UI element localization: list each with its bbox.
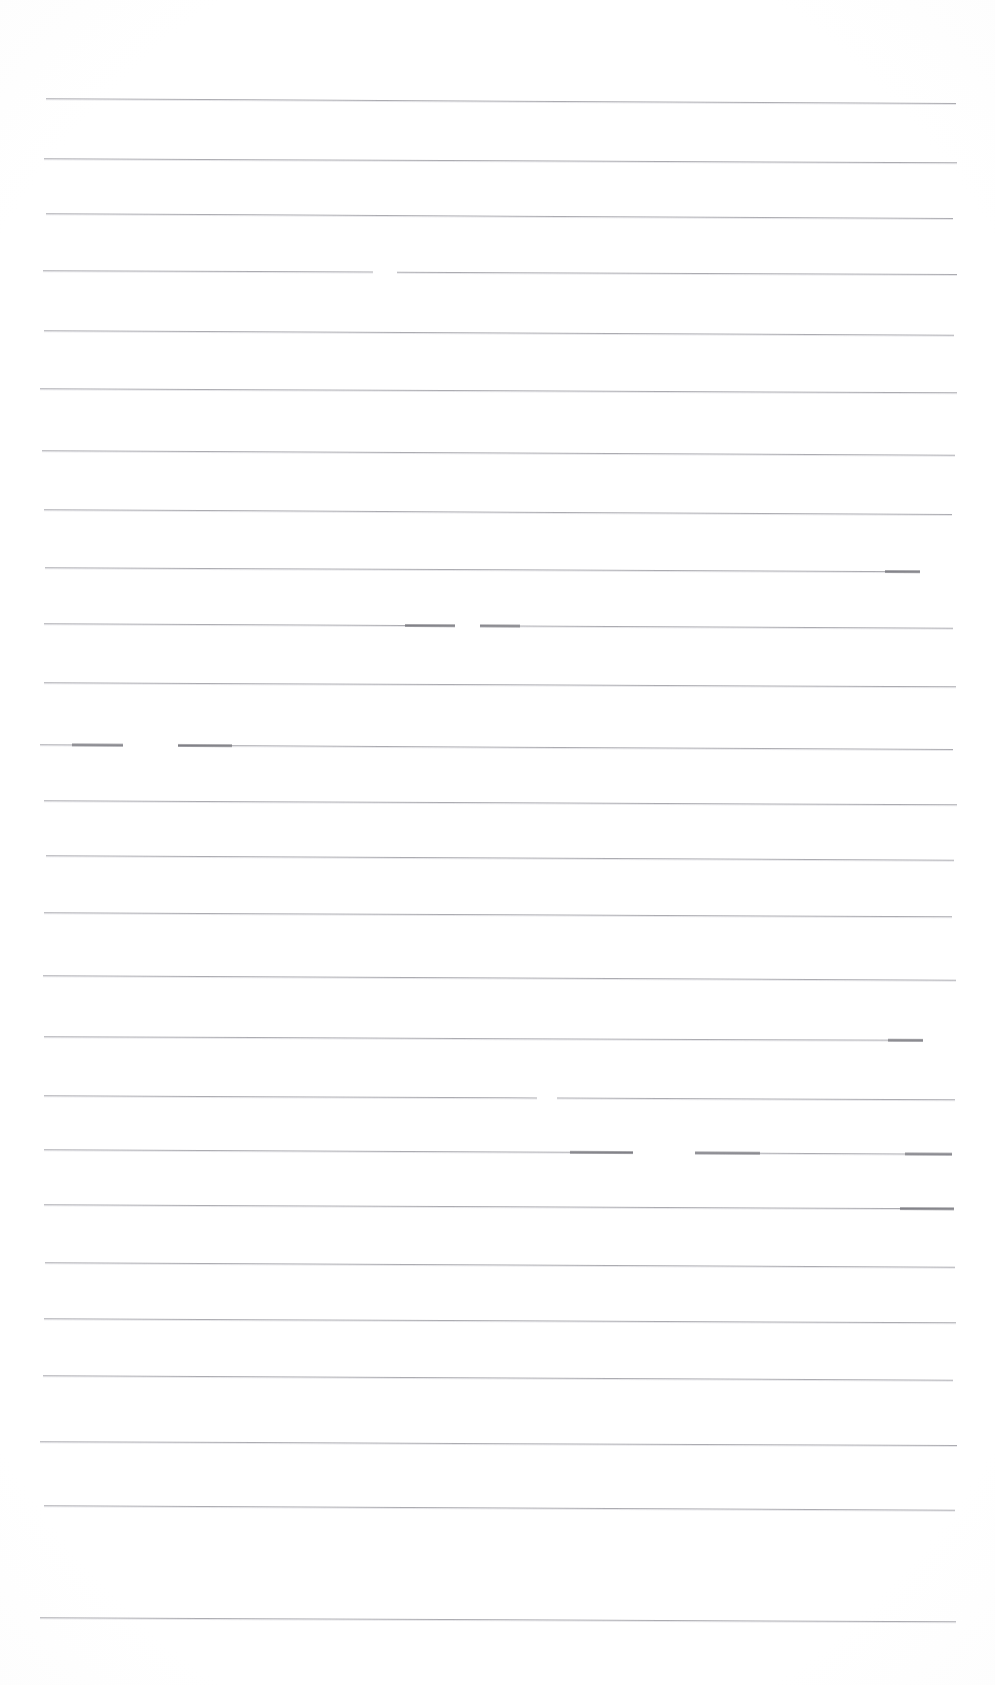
rule-segment — [40, 1617, 956, 1622]
rule-segment — [44, 1204, 954, 1209]
ruled-line — [0, 1375, 995, 1382]
scan-smudge — [905, 1152, 952, 1155]
ruled-line — [0, 567, 995, 574]
scan-smudge — [888, 1039, 923, 1042]
ruled-line — [0, 855, 995, 862]
rule-segment — [557, 1098, 955, 1101]
scan-smudge — [480, 624, 520, 627]
scan-smudge — [885, 570, 920, 573]
scan-smudge — [570, 1151, 633, 1154]
rule-segment — [44, 623, 455, 626]
ruled-line — [0, 158, 995, 165]
ruled-line — [0, 450, 995, 457]
scan-smudge — [405, 624, 455, 627]
rule-segment — [40, 1441, 957, 1446]
rule-segment — [44, 509, 952, 515]
ruled-line — [0, 1318, 995, 1325]
ruled-line — [0, 98, 995, 105]
rule-segment — [45, 567, 920, 572]
rule-segment — [46, 855, 954, 860]
rule-segment — [44, 1505, 955, 1510]
scan-smudge — [695, 1151, 760, 1154]
scan-smudge — [178, 744, 232, 747]
rule-segment — [44, 682, 956, 687]
ruled-line — [0, 623, 995, 630]
scanned-page — [0, 0, 995, 1685]
rule-segment — [43, 270, 373, 272]
rule-segment — [397, 272, 957, 275]
paper-texture — [0, 0, 995, 1685]
ruled-line — [0, 682, 995, 689]
rule-segment — [46, 213, 953, 219]
rule-segment — [44, 1318, 956, 1323]
ruled-line — [0, 912, 995, 919]
rule-segment — [46, 98, 956, 104]
ruled-line — [0, 270, 995, 276]
ruled-line — [0, 744, 995, 751]
scan-smudge — [72, 743, 123, 746]
scan-smudge — [900, 1207, 954, 1210]
ruled-line — [0, 509, 995, 516]
rule-segment — [44, 1095, 537, 1098]
rule-segment — [45, 1262, 955, 1267]
ruled-line — [0, 800, 995, 807]
ruled-line — [0, 388, 995, 395]
rule-segment — [44, 330, 954, 335]
rule-segment — [43, 1375, 953, 1380]
rule-segment — [44, 1149, 633, 1153]
ruled-line — [0, 213, 995, 220]
ruled-line — [0, 1617, 995, 1624]
ruled-line — [0, 1505, 995, 1512]
rule-segment — [44, 158, 957, 163]
rule-segment — [44, 1036, 923, 1041]
rule-segment — [42, 450, 955, 455]
rule-segment — [40, 388, 957, 393]
ruled-line — [0, 1441, 995, 1447]
rule-segment — [178, 745, 953, 750]
rule-segment — [44, 912, 952, 917]
rule-segment — [44, 800, 957, 805]
ruled-line — [0, 1095, 995, 1102]
ruled-line — [0, 975, 995, 982]
ruled-line — [0, 330, 995, 337]
ruled-line — [0, 1262, 995, 1269]
rule-segment — [43, 975, 956, 980]
ruled-line — [0, 1149, 995, 1156]
ruled-line — [0, 1036, 995, 1042]
ruled-line — [0, 1204, 995, 1211]
rule-segment — [480, 625, 953, 628]
